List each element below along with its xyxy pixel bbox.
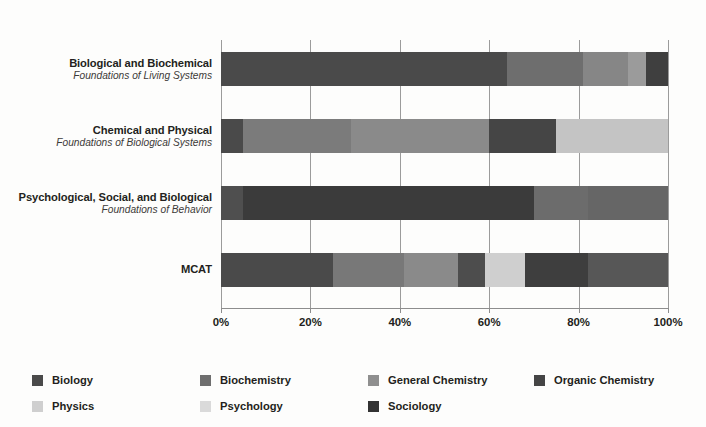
stacked-bar xyxy=(221,253,668,287)
stacked-bar xyxy=(221,186,668,220)
bar-row xyxy=(221,52,668,86)
legend-item-organic-chemistry[interactable]: Organic Chemistry xyxy=(534,374,654,386)
legend-swatch-icon xyxy=(368,375,379,386)
chart-container: 0%20%40%60%80%100% Biological and Bioche… xyxy=(0,0,706,360)
bar-segment xyxy=(507,52,583,86)
legend-item-sociology[interactable]: Sociology xyxy=(368,400,441,412)
legend-label: General Chemistry xyxy=(388,374,488,386)
x-tick-label: 40% xyxy=(370,316,430,328)
stacked-bar xyxy=(221,52,668,86)
x-axis-line xyxy=(221,308,669,309)
legend-label: Psychology xyxy=(220,400,283,412)
legend-item-psychology[interactable]: Psychology xyxy=(200,400,283,412)
category-label: Psychological, Social, and BiologicalFou… xyxy=(0,191,212,216)
x-tick xyxy=(489,308,490,313)
category-subtitle: Foundations of Living Systems xyxy=(0,70,212,82)
bar-segment xyxy=(646,52,668,86)
legend-label: Organic Chemistry xyxy=(554,374,654,386)
legend-label: Physics xyxy=(52,400,94,412)
plot-area xyxy=(221,40,668,308)
bar-segment xyxy=(351,119,490,153)
x-tick-label: 20% xyxy=(280,316,340,328)
bar-segment xyxy=(221,119,243,153)
legend-label: Biochemistry xyxy=(220,374,291,386)
category-title: MCAT xyxy=(0,263,212,276)
bar-segment xyxy=(404,253,458,287)
bar-segment xyxy=(588,186,668,220)
bar-segment xyxy=(583,52,628,86)
bar-segment xyxy=(243,186,534,220)
bar-segment xyxy=(628,52,646,86)
x-tick-label: 80% xyxy=(549,316,609,328)
category-subtitle: Foundations of Behavior xyxy=(0,204,212,216)
category-title: Chemical and Physical xyxy=(0,124,212,137)
legend-item-biology[interactable]: Biology xyxy=(32,374,93,386)
category-label: MCAT xyxy=(0,263,212,276)
bar-segment xyxy=(556,119,668,153)
x-tick-label: 60% xyxy=(459,316,519,328)
category-title: Psychological, Social, and Biological xyxy=(0,191,212,204)
bar-row xyxy=(221,119,668,153)
legend-swatch-icon xyxy=(534,375,545,386)
bar-segment xyxy=(489,119,556,153)
category-title: Biological and Biochemical xyxy=(0,57,212,70)
legend-item-physics[interactable]: Physics xyxy=(32,400,94,412)
bar-segment xyxy=(221,186,243,220)
legend-label: Biology xyxy=(52,374,93,386)
x-tick xyxy=(221,308,222,313)
legend-swatch-icon xyxy=(32,375,43,386)
bar-segment xyxy=(221,52,507,86)
stacked-bar xyxy=(221,119,668,153)
legend-item-general-chemistry[interactable]: General Chemistry xyxy=(368,374,488,386)
x-tick xyxy=(400,308,401,313)
x-tick-label: 0% xyxy=(191,316,251,328)
x-tick xyxy=(668,308,669,313)
category-label: Chemical and PhysicalFoundations of Biol… xyxy=(0,124,212,149)
bar-row xyxy=(221,253,668,287)
legend-swatch-icon xyxy=(200,375,211,386)
legend-swatch-icon xyxy=(368,401,379,412)
bar-segment xyxy=(534,186,588,220)
chart-legend: BiologyBiochemistryGeneral ChemistryOrga… xyxy=(0,362,706,426)
x-tick-label: 100% xyxy=(638,316,698,328)
x-tick xyxy=(310,308,311,313)
legend-item-biochemistry[interactable]: Biochemistry xyxy=(200,374,291,386)
bar-segment xyxy=(485,253,525,287)
bar-segment xyxy=(458,253,485,287)
bar-segment xyxy=(243,119,350,153)
bar-segment xyxy=(525,253,588,287)
legend-label: Sociology xyxy=(388,400,441,412)
bar-segment xyxy=(221,253,333,287)
legend-swatch-icon xyxy=(32,401,43,412)
legend-swatch-icon xyxy=(200,401,211,412)
category-subtitle: Foundations of Biological Systems xyxy=(0,137,212,149)
bar-row xyxy=(221,186,668,220)
category-label: Biological and BiochemicalFoundations of… xyxy=(0,57,212,82)
bar-segment xyxy=(333,253,405,287)
x-tick xyxy=(579,308,580,313)
gridline-100 xyxy=(668,40,669,308)
bar-segment xyxy=(588,253,668,287)
